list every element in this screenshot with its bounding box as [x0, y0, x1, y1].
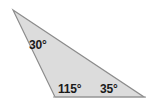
angle-label-bottom-right: 35°: [100, 83, 118, 95]
angle-label-apex: 30°: [29, 39, 47, 51]
angle-label-bottom-left: 115°: [58, 83, 81, 95]
triangle-diagram: 30° 115° 35°: [0, 0, 146, 108]
